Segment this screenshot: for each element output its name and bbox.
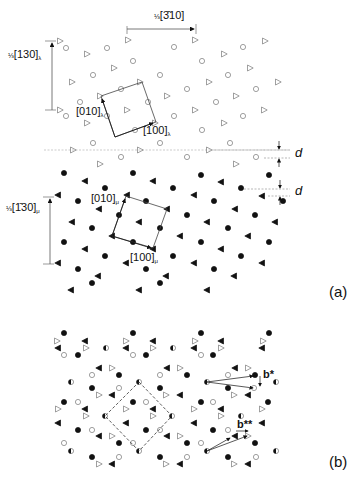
mu-lattice — [55, 170, 286, 293]
spacing-d-mu-label: d — [295, 183, 302, 198]
superlattice-cell — [105, 382, 172, 451]
superposition-lattice — [55, 330, 279, 467]
panel-b-label: (b) — [329, 453, 347, 470]
vector-310-label: ⅓[3̄10] — [154, 9, 184, 21]
axis-010-lambda-label: [010]λ — [76, 105, 103, 118]
axis-100-lambda-label: [100]λ — [143, 124, 170, 137]
axis-100-mu-label: [100]μ — [130, 251, 158, 264]
vector-130-lambda-label: ⅓[130]λ — [8, 48, 41, 61]
b-star-label: b* — [263, 368, 274, 380]
axis-010-mu-label: [010]μ — [91, 192, 119, 205]
vector-130-mu-label: ⅓[1̄30]μ — [6, 201, 40, 214]
lattice-diagram — [0, 0, 358, 479]
b-star-star-label: b** — [237, 418, 252, 430]
spacing-d-lambda-label: d — [295, 145, 302, 160]
lambda-lattice — [58, 37, 282, 167]
panel-a-label: (a) — [329, 283, 347, 300]
